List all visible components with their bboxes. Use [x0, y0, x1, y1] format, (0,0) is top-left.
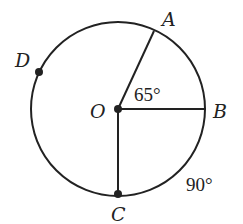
label-o: O [90, 100, 106, 122]
circle-diagram: A B C D O 65° 90° [0, 0, 243, 224]
point-o [114, 105, 122, 113]
angle-aob-label: 65° [134, 84, 161, 105]
point-d [35, 68, 43, 76]
arc-bc-label: 90° [186, 174, 213, 195]
label-a: A [160, 8, 176, 30]
label-c: C [111, 203, 126, 224]
point-c [114, 190, 122, 198]
label-d: D [14, 49, 30, 71]
label-b: B [212, 100, 227, 122]
